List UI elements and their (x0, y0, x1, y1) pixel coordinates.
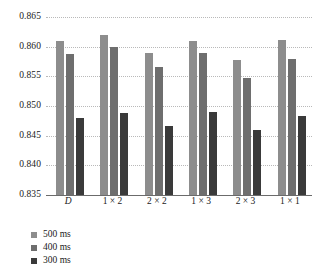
x-axis-line (46, 195, 312, 196)
bar[interactable] (253, 130, 261, 195)
y-axis-tick-label: 0.835 (19, 190, 41, 200)
bar[interactable] (189, 41, 197, 195)
bar-group (90, 17, 134, 195)
bar-group (179, 17, 223, 195)
legend-swatch-icon (31, 245, 37, 251)
legend-swatch-icon (31, 232, 37, 238)
legend-item-label: 300 ms (43, 256, 71, 266)
bar[interactable] (110, 47, 118, 195)
x-axis-tick-label: 1 × 1 (280, 197, 300, 207)
bar[interactable] (288, 59, 296, 195)
bar-chart: 0.8650.8600.8550.8500.8450.8400.835 D1 ×… (0, 0, 316, 275)
legend-swatch-icon (31, 258, 37, 264)
legend-item-label: 400 ms (43, 243, 71, 253)
x-axis-tick-label: 2 × 3 (236, 197, 256, 207)
y-axis-tick-label: 0.840 (19, 161, 41, 171)
y-axis-tick-label: 0.845 (19, 131, 41, 141)
bar[interactable] (209, 112, 217, 195)
plot-area (46, 17, 312, 195)
bar-group (135, 17, 179, 195)
bar[interactable] (298, 116, 306, 196)
bar[interactable] (56, 41, 64, 195)
bar[interactable] (199, 53, 207, 195)
bar[interactable] (165, 126, 173, 195)
y-axis-tick-label: 0.850 (19, 101, 41, 111)
bar[interactable] (233, 60, 241, 195)
legend-item[interactable]: 500 ms (31, 228, 71, 241)
bar[interactable] (145, 53, 153, 195)
bar[interactable] (66, 54, 74, 195)
x-axis-tick-label: 1 × 2 (103, 197, 123, 207)
y-axis-tick-label: 0.860 (19, 42, 41, 52)
bar-group (268, 17, 312, 195)
legend: 500 ms400 ms300 ms (31, 228, 71, 267)
x-axis-tick-label: 1 × 3 (191, 197, 211, 207)
bar[interactable] (155, 67, 163, 195)
x-axis-tick-label: D (65, 197, 72, 207)
x-axis-tick-label: 2 × 2 (147, 197, 167, 207)
legend-item[interactable]: 400 ms (31, 241, 71, 254)
bar-group (223, 17, 267, 195)
bar[interactable] (100, 35, 108, 195)
y-axis-tick-label: 0.855 (19, 72, 41, 82)
x-axis: D1 × 22 × 21 × 32 × 31 × 1 (46, 197, 312, 215)
y-axis-tick-label: 0.865 (19, 12, 41, 22)
bar[interactable] (76, 118, 84, 195)
bars-layer (46, 17, 312, 195)
bar[interactable] (120, 113, 128, 195)
legend-item[interactable]: 300 ms (31, 254, 71, 267)
bar-group (46, 17, 90, 195)
bar[interactable] (243, 78, 251, 195)
legend-item-label: 500 ms (43, 230, 71, 240)
bar[interactable] (278, 40, 286, 195)
